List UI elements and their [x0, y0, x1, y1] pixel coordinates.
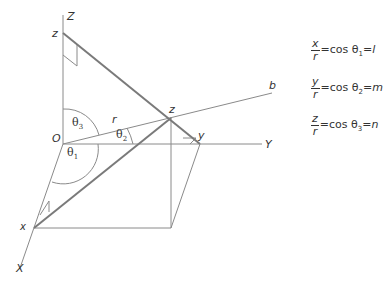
x-axis-label: X	[16, 263, 24, 274]
equation-x: xr =cos θ1=l	[311, 38, 375, 63]
origin-label: O	[52, 133, 61, 144]
equation-z: zr =cos θ3=n	[311, 113, 378, 138]
theta2-label: θ2	[116, 129, 127, 143]
y-point-label: y	[198, 130, 205, 141]
equation-y: yr =cos θ2=m	[311, 76, 383, 101]
theta1-label: θ1	[67, 147, 78, 161]
right-angle-z	[63, 44, 77, 66]
theta3-label: θ3	[72, 117, 83, 131]
y-edge	[171, 144, 200, 228]
y-axis-label: Y	[265, 139, 272, 150]
z-top-label: z	[52, 28, 58, 39]
r-label: r	[112, 114, 117, 125]
theta2-arc	[127, 128, 133, 144]
z-point-label: z	[169, 104, 175, 115]
x-axis	[20, 144, 63, 268]
z-axis-label: Z	[67, 11, 75, 22]
x-point-label: x	[20, 222, 26, 232]
right-angle-x	[40, 201, 49, 215]
b-label: b	[269, 80, 276, 91]
